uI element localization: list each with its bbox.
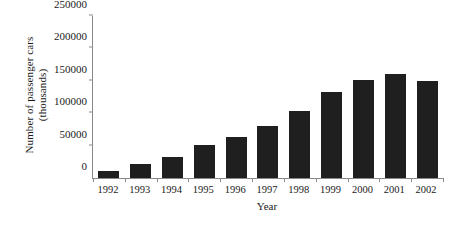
y-axis-tick-label: 200000 bbox=[54, 30, 93, 42]
bar-slot bbox=[125, 16, 157, 178]
y-axis-tick-label: 150000 bbox=[54, 63, 93, 75]
bar-slot bbox=[157, 16, 189, 178]
y-axis-title: Number of passenger cars (thousands) bbox=[14, 0, 58, 190]
bar bbox=[417, 81, 438, 178]
y-axis-tick-mark bbox=[89, 112, 93, 113]
x-axis-tick-label: 1992 bbox=[92, 184, 124, 195]
x-axis-title: Year bbox=[92, 200, 442, 212]
y-axis-title-line-2: (thousands) bbox=[36, 37, 49, 154]
x-axis-tick-mark bbox=[157, 178, 158, 182]
bar bbox=[226, 137, 247, 178]
bar-slot bbox=[220, 16, 252, 178]
bar bbox=[385, 74, 406, 178]
y-axis-tick-label: 0 bbox=[82, 160, 94, 172]
bar-slot bbox=[411, 16, 443, 178]
bar-slot bbox=[316, 16, 348, 178]
x-axis-tick-label: 2000 bbox=[347, 184, 379, 195]
x-axis-tick-label: 2001 bbox=[378, 184, 410, 195]
x-axis-tick-mark bbox=[284, 178, 285, 182]
x-axis-tick-label: 1997 bbox=[251, 184, 283, 195]
bar-slot bbox=[379, 16, 411, 178]
bar bbox=[130, 164, 151, 178]
plot-area: 050000100000150000200000250000 bbox=[92, 16, 443, 179]
y-axis-tick-mark bbox=[89, 144, 93, 145]
x-axis-tick-label: 1993 bbox=[124, 184, 156, 195]
bar-series bbox=[93, 16, 443, 178]
x-axis-tick-label: 1996 bbox=[219, 184, 251, 195]
bar-slot bbox=[252, 16, 284, 178]
x-axis-tick-label: 1995 bbox=[187, 184, 219, 195]
y-axis-tick-mark bbox=[89, 15, 93, 16]
x-axis-tick-mark bbox=[348, 178, 349, 182]
x-axis-tick-mark bbox=[93, 178, 94, 182]
x-axis-tick-label: 1994 bbox=[156, 184, 188, 195]
x-axis-tick-mark bbox=[220, 178, 221, 182]
y-axis-tick-label: 50000 bbox=[60, 128, 94, 140]
bar-slot bbox=[348, 16, 380, 178]
y-axis-tick-mark bbox=[89, 79, 93, 80]
bar bbox=[353, 80, 374, 178]
x-axis-tick-mark bbox=[125, 178, 126, 182]
bar-slot bbox=[188, 16, 220, 178]
x-axis-tick-mark bbox=[252, 178, 253, 182]
x-axis-tick-label: 2002 bbox=[410, 184, 442, 195]
bar-slot bbox=[284, 16, 316, 178]
y-axis-tick-mark bbox=[89, 47, 93, 48]
bar bbox=[289, 111, 310, 178]
x-axis-tick-mark bbox=[411, 178, 412, 182]
bar-chart: Number of passenger cars (thousands) 050… bbox=[0, 0, 463, 236]
y-axis-tick-label: 100000 bbox=[54, 95, 93, 107]
x-axis-tick-mark bbox=[188, 178, 189, 182]
bar bbox=[162, 157, 183, 178]
bar-slot bbox=[93, 16, 125, 178]
bar bbox=[321, 92, 342, 178]
x-axis-tick-mark bbox=[316, 178, 317, 182]
bar bbox=[257, 126, 278, 178]
x-axis-tick-label: 1998 bbox=[283, 184, 315, 195]
x-axis-tick-labels: 1992199319941995199619971998199920002001… bbox=[92, 184, 442, 195]
x-axis-tick-mark bbox=[379, 178, 380, 182]
x-axis-tick-label: 1999 bbox=[315, 184, 347, 195]
y-axis-title-line-1: Number of passenger cars bbox=[23, 37, 35, 154]
y-axis-tick-label: 250000 bbox=[54, 0, 93, 10]
bar bbox=[194, 145, 215, 178]
x-axis-tick-mark bbox=[443, 178, 444, 182]
bar bbox=[98, 171, 119, 178]
